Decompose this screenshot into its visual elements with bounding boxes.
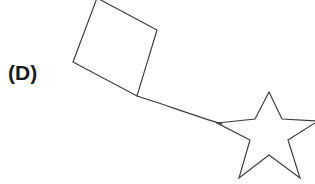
- connector-line: [137, 96, 222, 124]
- panel-label: (D): [8, 61, 37, 85]
- square-shape: [73, 0, 157, 96]
- figure-panel: (D): [0, 0, 315, 184]
- star-shape: [217, 92, 315, 178]
- figure-canvas: [0, 0, 315, 184]
